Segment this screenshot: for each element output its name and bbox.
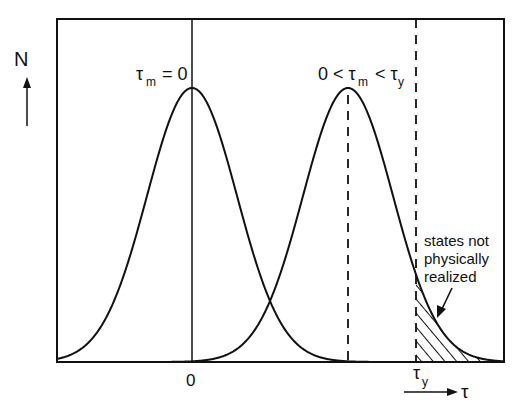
svg-text:y: y <box>422 375 428 389</box>
plot-frame <box>57 19 504 362</box>
right-arrow-icon <box>404 388 458 396</box>
svg-text:τ: τ <box>413 363 420 383</box>
x-axis-label: τ <box>461 381 469 402</box>
svg-text:< τ: < τ <box>370 64 398 84</box>
svg-text:states not: states not <box>424 232 490 249</box>
svg-text:0 < τ: 0 < τ <box>318 64 356 84</box>
annotation-arrow-icon <box>437 288 452 318</box>
x-tick-yield: τ y <box>413 363 428 389</box>
svg-text:realized: realized <box>424 268 477 285</box>
left-curve-label: τ m = 0 <box>136 64 188 89</box>
svg-text:m: m <box>358 75 368 89</box>
svg-text:τ: τ <box>136 64 143 84</box>
svg-text:m: m <box>146 75 156 89</box>
up-arrow-icon <box>23 77 31 126</box>
svg-text:physically: physically <box>424 250 490 267</box>
right-curve-label: 0 < τ m < τ y <box>318 64 404 89</box>
svg-text:= 0: = 0 <box>157 64 188 84</box>
annotation-label: states not physically realized <box>424 232 490 285</box>
x-tick-zero: 0 <box>186 371 195 390</box>
svg-text:y: y <box>398 75 404 89</box>
y-axis-label: N <box>14 48 28 70</box>
gaussian-diagram: N τ m = 0 0 < τ m < τ y states not physi… <box>0 0 522 413</box>
